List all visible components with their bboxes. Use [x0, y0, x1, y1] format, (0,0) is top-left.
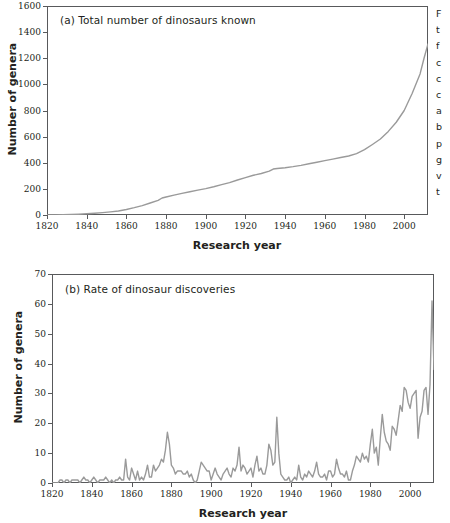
panel-a-line-chart — [47, 6, 428, 215]
panel-b-xtick-mark — [251, 483, 252, 487]
panel-b-xtick-label: 1840 — [80, 489, 103, 499]
panel-a-xtick-mark — [166, 215, 167, 219]
panel-b-xtick-label: 1900 — [200, 489, 223, 499]
panel-b-xtick-label: 1960 — [319, 489, 342, 499]
panel-a-xtick-mark — [126, 215, 127, 219]
panel-b-ytick-label: 0 — [0, 478, 46, 488]
side-caption-line: t — [436, 22, 450, 38]
panel-b-line-chart — [52, 274, 434, 483]
side-caption-line: c — [436, 87, 450, 103]
side-caption-line: f — [436, 38, 450, 54]
panel-b-xtick-mark — [291, 483, 292, 487]
panel-a-xtick-mark — [404, 215, 405, 219]
side-caption-line: p — [436, 136, 450, 152]
panel-a: (a) Total number of dinosaurs known 0200… — [0, 0, 450, 258]
panel-a-xtick-label: 1820 — [36, 221, 59, 231]
panel-a-xtick-label: 1940 — [274, 221, 297, 231]
side-caption-line: v — [436, 168, 450, 184]
side-caption-text: Ftfcccabpgvt — [436, 6, 450, 200]
panel-b-xtick-mark — [171, 483, 172, 487]
side-caption-line: c — [436, 55, 450, 71]
panel-a-ytick-label: 0 — [0, 210, 41, 220]
panel-b-xtick-label: 1940 — [279, 489, 302, 499]
panel-b-xtick-mark — [52, 483, 53, 487]
panel-a-xtick-label: 1840 — [75, 221, 98, 231]
panel-b-xtick-mark — [410, 483, 411, 487]
panel-b-xtick-label: 1880 — [160, 489, 183, 499]
side-caption-line: t — [436, 184, 450, 200]
panel-a-xtick-label: 1980 — [353, 221, 376, 231]
panel-a-xtick-mark — [206, 215, 207, 219]
panel-b-data-line — [52, 301, 434, 483]
panel-b-xtick-mark — [92, 483, 93, 487]
panel-a-ytick-label: 1600 — [0, 1, 41, 11]
panel-b-xtick-mark — [211, 483, 212, 487]
panel-a-xtick-mark — [325, 215, 326, 219]
side-caption-line: g — [436, 152, 450, 168]
panel-a-xtick-label: 2000 — [393, 221, 416, 231]
panel-b-y-axis-title: Number of genera — [12, 334, 25, 424]
panel-b-ytick-label: 60 — [0, 299, 46, 309]
panel-b: (b) Rate of dinosaur discoveries 0102030… — [0, 262, 450, 523]
panel-a-xtick-mark — [245, 215, 246, 219]
side-caption-line: c — [436, 71, 450, 87]
panel-a-xtick-mark — [285, 215, 286, 219]
panel-a-xtick-label: 1880 — [155, 221, 178, 231]
panel-b-xtick-label: 1980 — [359, 489, 382, 499]
panel-a-y-axis-title: Number of genera — [6, 66, 19, 156]
panel-a-xtick-label: 1960 — [313, 221, 336, 231]
panel-a-xtick-mark — [365, 215, 366, 219]
side-caption-line: a — [436, 103, 450, 119]
panel-a-xtick-label: 1920 — [234, 221, 257, 231]
panel-b-xtick-label: 1860 — [120, 489, 143, 499]
dinosaur-discovery-figure: (a) Total number of dinosaurs known 0200… — [0, 0, 450, 523]
panel-b-ytick-label: 10 — [0, 448, 46, 458]
panel-a-x-axis-title: Research year — [193, 239, 281, 252]
panel-b-ytick-label: 70 — [0, 269, 46, 279]
panel-b-xtick-mark — [331, 483, 332, 487]
panel-b-xtick-label: 1920 — [240, 489, 263, 499]
panel-a-ytick-label: 200 — [0, 184, 41, 194]
panel-a-xtick-label: 1900 — [194, 221, 217, 231]
panel-b-xtick-mark — [370, 483, 371, 487]
panel-a-xtick-mark — [47, 215, 48, 219]
panel-b-xtick-label: 1820 — [41, 489, 64, 499]
panel-b-xtick-label: 2000 — [399, 489, 422, 499]
panel-a-ytick-label: 400 — [0, 158, 41, 168]
panel-a-xtick-label: 1860 — [115, 221, 138, 231]
panel-a-xtick-mark — [87, 215, 88, 219]
side-caption-line: b — [436, 119, 450, 135]
panel-b-x-axis-title: Research year — [199, 507, 287, 520]
side-caption-line: F — [436, 6, 450, 22]
panel-a-ytick-label: 1400 — [0, 27, 41, 37]
panel-a-data-line — [47, 44, 428, 215]
panel-b-xtick-mark — [132, 483, 133, 487]
